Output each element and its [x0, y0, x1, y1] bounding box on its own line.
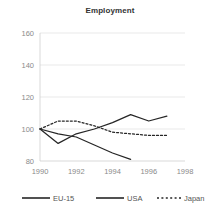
legend-label-japan: Japan [184, 194, 204, 203]
chart-legend: EU-15USAJapan [22, 194, 204, 203]
series-line-eu-15 [40, 129, 131, 159]
employment-chart: Employment 80100120140160 19901992199419… [0, 0, 220, 208]
y-axis-tick-labels: 80100120140160 [21, 29, 34, 166]
x-tick-1994: 1994 [104, 167, 121, 176]
legend-label-eu-15: EU-15 [53, 194, 74, 203]
x-tick-1992: 1992 [68, 167, 85, 176]
y-tick-100: 100 [21, 125, 34, 134]
y-tick-140: 140 [21, 61, 34, 70]
x-tick-1996: 1996 [140, 167, 157, 176]
y-tick-120: 120 [21, 93, 34, 102]
x-axis-tick-labels: 19901992199419961998 [32, 167, 194, 176]
series-line-japan [40, 121, 167, 135]
data-series-group [40, 115, 167, 160]
y-tick-160: 160 [21, 29, 34, 38]
x-tick-1990: 1990 [32, 167, 49, 176]
chart-plot-area: 80100120140160 19901992199419961998 EU-1… [0, 0, 220, 208]
legend-label-usa: USA [127, 194, 142, 203]
x-tick-1998: 1998 [177, 167, 194, 176]
y-tick-80: 80 [26, 157, 34, 166]
